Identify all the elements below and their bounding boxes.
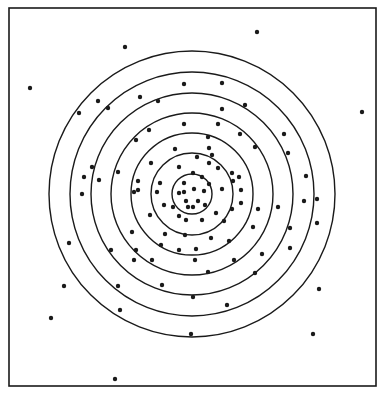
ring-3 [131,133,253,255]
scatter-dot [207,161,211,165]
scatter-dot [130,230,134,234]
scatter-dot [202,189,206,193]
scatter-dot [239,201,243,205]
scatter-dot [220,107,224,111]
scatter-dot [155,190,159,194]
scatter-dot [147,128,151,132]
scatter-dot [132,190,136,194]
scatter-dot [182,190,186,194]
scatter-dot [28,86,32,90]
scatter-dot [227,239,231,243]
scatter-dot [191,295,195,299]
scatter-dot [82,175,86,179]
scatter-dot [238,132,242,136]
scatter-dot [196,199,200,203]
diagram-frame [9,8,376,386]
scatter-dot [200,175,204,179]
scatter-dot [207,146,211,150]
scatter-dot [80,192,84,196]
scatter-dot [220,187,224,191]
scatter-dot [186,205,190,209]
scatter-dot [220,81,224,85]
scatter-dot [209,236,213,240]
scatter-dot [134,248,138,252]
scatter-dot [315,197,319,201]
scatter-dot [77,111,81,115]
scatter-dot [159,243,163,247]
scatter-dot [276,205,280,209]
ring-7 [49,51,335,337]
scatter-dot [116,284,120,288]
scatter-dot [184,199,188,203]
scatter-dot [162,203,166,207]
scatter-dot [230,207,234,211]
scatter-dot [210,153,214,157]
scatter-dot [183,233,187,237]
scatter-dot [191,205,195,209]
scatter-dot [171,205,175,209]
scatter-dot [260,252,264,256]
scatter-dot [177,165,181,169]
scatter-dot [231,179,235,183]
scatter-dot [138,95,142,99]
scatter-dot [311,332,315,336]
scatter-dot [191,171,195,175]
scatter-dot [177,248,181,252]
scatter-dot [97,178,101,182]
scatter-dot [304,174,308,178]
scatter-dot [67,241,71,245]
scatter-dot [200,218,204,222]
scatter-dot [116,170,120,174]
scatter-dot [109,248,113,252]
scatter-dot [136,188,140,192]
scatter-dot [237,175,241,179]
ring-5 [91,93,293,295]
scatter-dot [207,182,211,186]
scatter-dot [253,145,257,149]
scatter-dot [194,247,198,251]
scatter-dot [230,171,234,175]
target-diagram [0,0,382,396]
scatter-dot [286,151,290,155]
target-diagram-canvas [0,0,382,396]
scatter-dot [177,214,181,218]
scatter-dot [195,155,199,159]
scatter-dot [243,103,247,107]
scatter-dot [132,258,136,262]
scatter-dot [158,181,162,185]
scatter-dot [206,135,210,139]
scatter-dot [160,283,164,287]
scatter-dot [216,166,220,170]
scatter-dot [148,213,152,217]
scatter-dot [182,181,186,185]
scatter-dot [222,219,226,223]
scatter-dot [317,287,321,291]
scatter-dot [255,30,259,34]
scatter-dot [173,147,177,151]
scatter-dot [225,303,229,307]
scatter-dot [90,165,94,169]
scatter-dot [216,122,220,126]
scatter-dot [193,258,197,262]
scatter-dot [288,226,292,230]
scatter-dot [106,106,110,110]
scatter-dot [189,332,193,336]
scatter-dot [182,122,186,126]
scatter-dot [150,258,154,262]
scatter-dot [192,187,196,191]
scatter-dot [163,232,167,236]
scatter-dot [203,203,207,207]
scatter-dot [123,45,127,49]
scatter-dot [184,218,188,222]
scatter-dot [288,246,292,250]
scatter-dot [62,284,66,288]
scatter-dot [302,199,306,203]
scatter-dot [253,271,257,275]
scatter-dot [156,99,160,103]
scatter-dot [282,132,286,136]
scatter-dot [256,207,260,211]
scatter-dot [315,221,319,225]
scatter-dot [136,179,140,183]
scatter-dot [206,270,210,274]
scatter-dot [118,308,122,312]
